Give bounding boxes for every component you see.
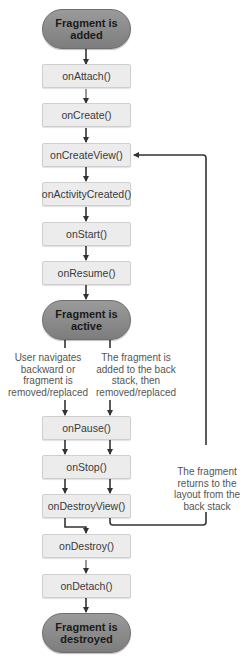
callback-on-create-view: onCreateView() [42,143,131,167]
fragment-lifecycle-diagram: Fragment is added onAttach() onCreate() … [0,0,250,670]
callback-on-pause: onPause() [42,416,131,440]
connector-arrows [0,0,250,670]
callback-on-start: onStart() [42,222,131,246]
state-fragment-active: Fragment is active [42,300,131,340]
callback-on-activity-created: onActivityCreated() [42,182,131,206]
callback-on-stop: onStop() [42,455,131,479]
callback-on-detach: onDetach() [42,574,131,598]
state-fragment-destroyed: Fragment is destroyed [42,613,131,653]
callback-on-destroy: onDestroy() [42,534,131,558]
callback-on-destroy-view: onDestroyView() [42,494,131,518]
state-fragment-added: Fragment is added [42,9,131,49]
callback-on-create: onCreate() [42,103,131,127]
note-left-branch: User navigates backward or fragment is r… [8,352,88,398]
note-return-loop: The fragment returns to the layout from … [172,466,242,512]
note-right-branch: The fragment is added to the back stack,… [96,352,176,398]
callback-on-attach: onAttach() [42,64,131,88]
callback-on-resume: onResume() [42,261,131,285]
